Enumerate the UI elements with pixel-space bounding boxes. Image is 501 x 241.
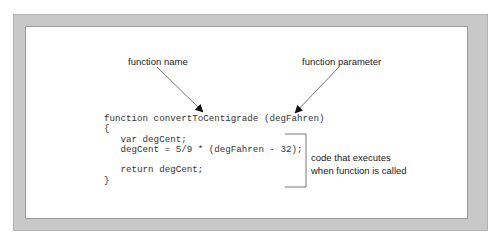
label-function-body-line2: when function is called: [311, 164, 371, 177]
label-function-body-line1: code that executes: [311, 151, 371, 164]
label-function-body: code that executes when function is call…: [311, 151, 371, 177]
code-line-close-brace: }: [104, 176, 325, 186]
code-line-return: return degCent;: [104, 165, 325, 175]
code-block: function convertToCentigrade (degFahren)…: [104, 114, 325, 186]
label-function-parameter: function parameter: [302, 57, 381, 67]
code-line-signature: function convertToCentigrade (degFahren): [104, 114, 325, 124]
label-function-name: function name: [128, 57, 188, 67]
code-line-assign: degCent = 5/9 * (degFahren - 32);: [104, 145, 325, 155]
